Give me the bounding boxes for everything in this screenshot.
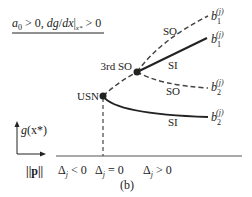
region-zero-label: Δj = 0 xyxy=(95,163,124,179)
usn-point xyxy=(100,93,107,100)
branch-si-lower xyxy=(103,96,208,117)
si-lower-label: SI xyxy=(168,116,178,128)
x-axis-label: ||p|| xyxy=(26,164,43,178)
condition-label: a0 > 0, dg/dx|x* > 0 xyxy=(12,16,101,32)
endpoint-b2-si: b2(j) xyxy=(211,108,224,127)
si-upper-label: SI xyxy=(168,59,178,71)
endpoint-b1-so: b1(j) xyxy=(211,7,224,26)
so-lower-label: SO xyxy=(166,85,180,97)
unstable-branch xyxy=(103,72,137,96)
usn-label: USN xyxy=(77,90,99,102)
region-pos-label: Δj > 0 xyxy=(143,163,172,179)
endpoint-b2-so: b2(j) xyxy=(211,78,224,97)
figure-caption: (b) xyxy=(120,178,134,192)
svg-text:a0 > 0, dg/dx|x* > 0: a0 > 0, dg/dx|x* > 0 xyxy=(12,16,101,32)
endpoint-b1-si: b1(j) xyxy=(211,30,224,49)
region-neg-label: Δj < 0 xyxy=(58,163,87,179)
x-axis-arrow-icon xyxy=(40,152,46,157)
third-so-label: 3rd SO xyxy=(101,60,133,72)
bifurcation-diagram: a0 > 0, dg/dx|x* > 0 USN 3rd SO SO SI SO… xyxy=(0,0,252,197)
third-so-point xyxy=(134,69,141,76)
y-axis-arrow-icon xyxy=(15,121,20,127)
so-upper-label: SO xyxy=(163,25,177,37)
y-axis-label: g(x*) xyxy=(21,123,47,137)
